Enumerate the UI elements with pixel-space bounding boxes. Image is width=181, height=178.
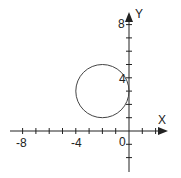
x-axis-label: X bbox=[158, 113, 166, 127]
y-axis-arrow-icon bbox=[125, 12, 133, 22]
origin-label: 0 bbox=[119, 135, 126, 149]
y-axis-label: Y bbox=[135, 7, 143, 21]
y-tick-label-4: 4 bbox=[119, 72, 126, 86]
x-axis-arrow-icon bbox=[158, 127, 168, 135]
y-tick-label-8: 8 bbox=[118, 17, 125, 31]
x-tick-label-neg8: -8 bbox=[16, 136, 27, 150]
x-tick-label-neg4: -4 bbox=[71, 136, 82, 150]
coordinate-plane: Y X 0 -8 -4 8 4 bbox=[0, 0, 181, 178]
